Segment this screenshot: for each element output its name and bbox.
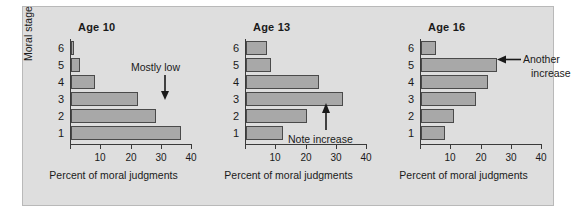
x-tick-label-20: 20 [118,152,144,163]
y-tick-label-2: 2 [402,111,414,121]
panel-title-age-16: Age 16 [428,21,465,33]
x-tick-10 [275,144,276,149]
x-tick-20 [481,144,482,149]
bar-stage-4 [246,75,319,89]
annotation-another-increase-line2: increase [531,67,571,79]
y-tick-label-3: 3 [52,94,64,104]
x-tick-30 [511,144,512,149]
x-tick-label-20: 20 [468,152,494,163]
bar-stage-4 [71,75,95,89]
arrow-up-icon [320,103,332,130]
y-tick-label-4: 4 [52,77,64,87]
bar-stage-6 [71,41,74,55]
x-tick-label-30: 30 [498,152,524,163]
annotation-note-increase: Note increase [288,133,353,145]
bar-stage-5 [421,58,497,72]
bar-stage-2 [246,109,307,123]
x-tick-10 [100,144,101,149]
bar-row-stage-3 [421,92,476,106]
y-axis-label: Moral stage [22,6,34,61]
plot-area-age-10: 10 20 30 40 6 5 4 3 2 1 [70,39,192,143]
panel-title-age-13: Age 13 [253,21,290,33]
arrow-down-icon [159,75,171,101]
chart-panel-age-10: Age 10 Moral stage 10 20 30 40 6 5 4 3 2… [26,7,201,207]
bar-stage-6 [246,41,267,55]
x-tick-40 [366,144,367,149]
y-tick-label-6: 6 [52,43,64,53]
x-tick-label-10: 10 [87,152,113,163]
panel-title-age-10: Age 10 [78,21,115,33]
x-axis-label-age-16: Percent of moral judgments [376,169,551,181]
bar-row-stage-4 [71,75,95,89]
bar-stage-2 [421,109,454,123]
bar-row-stage-2 [421,109,454,123]
bar-row-stage-2 [71,109,156,123]
x-tick-0 [245,144,246,149]
x-tick-label-40: 40 [528,152,554,163]
bar-stage-3 [71,92,138,106]
y-tick-label-2: 2 [52,111,64,121]
x-tick-40 [541,144,542,149]
bar-stage-5 [71,58,80,72]
bar-stage-3 [421,92,476,106]
bar-stage-6 [421,41,436,55]
bar-stage-5 [246,58,271,72]
y-tick-label-6: 6 [227,43,239,53]
x-tick-10 [450,144,451,149]
bar-stage-1 [421,126,445,140]
bar-row-stage-5 [71,58,80,72]
y-tick-label-5: 5 [52,60,64,70]
bar-row-stage-6 [71,41,74,55]
x-tick-label-30: 30 [148,152,174,163]
x-tick-label-20: 20 [293,152,319,163]
y-tick-label-4: 4 [227,77,239,87]
bar-row-stage-5 [246,58,271,72]
x-tick-label-10: 10 [262,152,288,163]
bar-row-stage-4 [421,75,488,89]
y-tick-label-3: 3 [402,94,414,104]
bar-row-stage-3 [71,92,138,106]
x-tick-0 [70,144,71,149]
x-tick-label-30: 30 [323,152,349,163]
bar-row-stage-1 [421,126,445,140]
bar-row-stage-5 [421,58,497,72]
arrow-left-icon [497,54,521,65]
y-tick-label-2: 2 [227,111,239,121]
annotation-another-increase-line1: Another [523,53,560,65]
plot-area-age-13: 10 20 30 40 6 5 4 3 2 1 [245,39,367,143]
bar-stage-4 [421,75,488,89]
x-tick-40 [191,144,192,149]
y-tick-label-1: 1 [227,128,239,138]
chart-panel-age-16: Age 16 10 20 30 40 6 5 4 3 2 1 [376,7,551,207]
x-tick-30 [161,144,162,149]
bar-stage-1 [71,126,181,140]
bar-row-stage-4 [246,75,319,89]
bar-row-stage-1 [71,126,181,140]
x-axis-label-age-10: Percent of moral judgments [26,169,201,181]
x-tick-0 [420,144,421,149]
annotation-mostly-low: Mostly low [131,61,180,73]
bar-row-stage-2 [246,109,307,123]
y-tick-label-5: 5 [402,60,414,70]
figure-panel: Age 10 Moral stage 10 20 30 40 6 5 4 3 2… [22,6,554,206]
chart-panel-age-13: Age 13 10 20 30 40 6 5 4 3 2 1 [201,7,376,207]
y-tick-label-5: 5 [227,60,239,70]
y-tick-label-1: 1 [52,128,64,138]
bar-row-stage-1 [246,126,283,140]
x-tick-label-10: 10 [437,152,463,163]
bar-stage-2 [71,109,156,123]
y-tick-label-3: 3 [227,94,239,104]
y-tick-label-4: 4 [402,77,414,87]
y-tick-label-6: 6 [402,43,414,53]
bar-row-stage-6 [246,41,267,55]
x-tick-20 [131,144,132,149]
bar-stage-1 [246,126,283,140]
x-axis-label-age-13: Percent of moral judgments [201,169,376,181]
y-tick-label-1: 1 [402,128,414,138]
bar-row-stage-6 [421,41,436,55]
